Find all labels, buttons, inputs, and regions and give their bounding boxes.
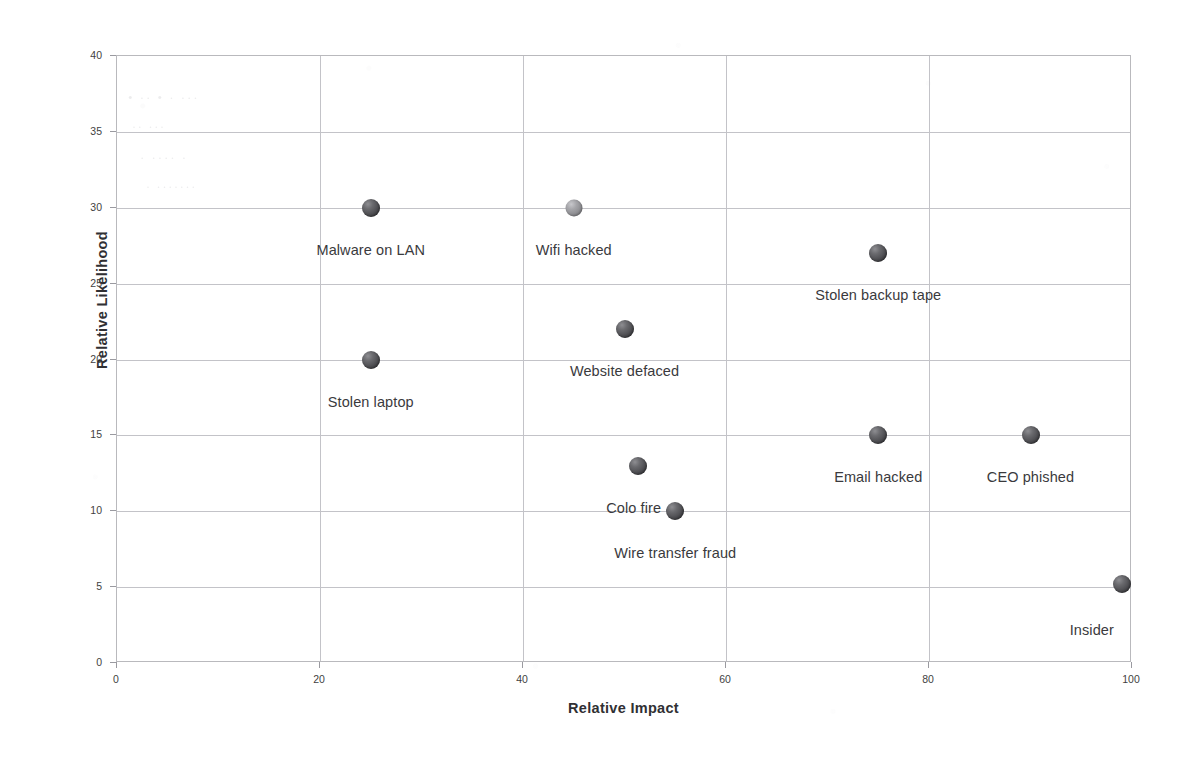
y-axis-title: Relative Likelihood [94,180,110,420]
data-point-ceo-phished[interactable] [1022,426,1040,444]
y-tick-mark-40 [110,55,116,56]
x-tick-mark-40 [522,662,523,668]
x-axis-title: Relative Impact [116,700,1131,716]
gridline-y-15 [117,435,1130,436]
data-point-label-email-hacked: Email hacked [834,469,922,485]
data-point-label-wifi-hacked: Wifi hacked [536,242,612,258]
y-tick-mark-35 [110,131,116,132]
y-tick-mark-5 [110,586,116,587]
data-point-malware-on-lan[interactable] [362,199,380,217]
y-tick-label-20: 20 [62,354,102,365]
x-tick-label-0: 0 [96,674,136,685]
data-point-insider[interactable] [1113,575,1131,593]
gridline-x-40 [523,56,524,661]
data-point-label-wire-transfer-fraud: Wire transfer fraud [614,545,736,561]
data-point-wire-transfer-fraud[interactable] [666,502,684,520]
data-point-colo-fire[interactable] [629,457,647,475]
data-point-label-insider: Insider [1070,622,1114,638]
x-tick-label-100: 100 [1111,674,1151,685]
x-tick-mark-60 [725,662,726,668]
plot-area: Malware on LANWifi hackedStolen backup t… [116,55,1131,662]
gridline-y-25 [117,284,1130,285]
y-tick-mark-15 [110,434,116,435]
data-point-label-ceo-phished: CEO phished [987,469,1074,485]
gridline-y-35 [117,132,1130,133]
y-tick-label-5: 5 [62,581,102,592]
y-tick-label-35: 35 [62,126,102,137]
x-tick-label-40: 40 [502,674,542,685]
data-point-label-stolen-laptop: Stolen laptop [328,394,414,410]
data-point-email-hacked[interactable] [869,426,887,444]
gridline-y-5 [117,587,1130,588]
y-tick-label-10: 10 [62,505,102,516]
risk-scatter-chart: • ·· • · ····· ···· ···· ·· ······· Rela… [0,0,1190,757]
data-point-stolen-laptop[interactable] [362,351,380,369]
gridline-x-80 [929,56,930,661]
data-point-label-colo-fire: Colo fire [606,500,661,516]
y-tick-label-40: 40 [62,50,102,61]
x-tick-label-20: 20 [299,674,339,685]
y-tick-mark-20 [110,359,116,360]
y-tick-mark-10 [110,510,116,511]
data-point-label-website-defaced: Website defaced [570,363,679,379]
x-tick-mark-20 [319,662,320,668]
y-tick-mark-25 [110,283,116,284]
data-point-label-stolen-backup-tape: Stolen backup tape [815,287,941,303]
x-tick-mark-0 [116,662,117,668]
gridline-y-20 [117,360,1130,361]
y-tick-label-25: 25 [62,278,102,289]
y-tick-label-0: 0 [62,657,102,668]
x-tick-mark-100 [1131,662,1132,668]
y-tick-label-30: 30 [62,202,102,213]
data-point-wifi-hacked[interactable] [565,199,582,216]
gridline-x-60 [726,56,727,661]
data-point-label-malware-on-lan: Malware on LAN [316,242,425,258]
x-tick-label-60: 60 [705,674,745,685]
x-tick-label-80: 80 [908,674,948,685]
x-tick-mark-80 [928,662,929,668]
data-point-website-defaced[interactable] [616,320,634,338]
gridline-x-20 [320,56,321,661]
y-tick-label-15: 15 [62,429,102,440]
y-tick-mark-30 [110,207,116,208]
data-point-stolen-backup-tape[interactable] [869,244,887,262]
gridline-y-30 [117,208,1130,209]
